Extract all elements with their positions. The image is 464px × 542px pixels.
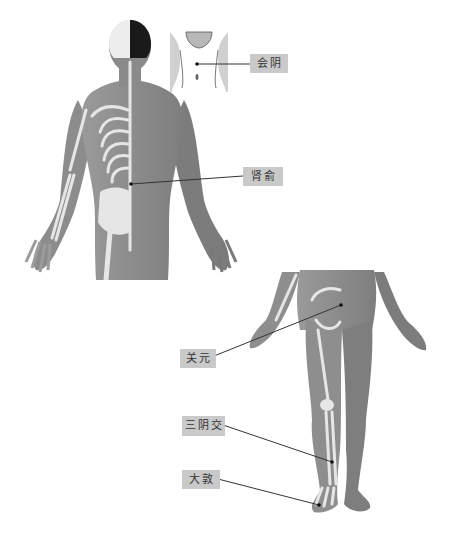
label-shenshu: 肾俞 <box>243 167 283 186</box>
label-sanyinjiao: 三阴交 <box>182 416 225 436</box>
point-dot-shenshu <box>129 182 133 186</box>
point-dot-guanyuan <box>339 303 343 307</box>
perineum-inset <box>170 32 228 92</box>
label-dadun: 大敦 <box>182 470 220 489</box>
acupuncture-diagram: 会阴 肾俞 关元 三阴交 大敦 <box>0 0 464 542</box>
label-guanyuan: 关元 <box>180 349 216 368</box>
label-huiyin: 会阴 <box>250 54 288 73</box>
point-dot-huiyin <box>195 62 199 66</box>
point-dot-dadun <box>317 503 321 507</box>
anatomy-illustration <box>0 0 464 542</box>
point-dot-sanyinjiao <box>330 460 334 464</box>
back-view-figure <box>26 20 236 280</box>
